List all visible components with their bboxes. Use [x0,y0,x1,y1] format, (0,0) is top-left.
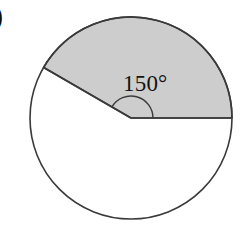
list-item-marker: ) [0,1,3,31]
angle-label: 150° [123,71,168,96]
circle-sector-figure: 150° ) [0,0,240,226]
figure-container: 150° ) [0,0,240,226]
